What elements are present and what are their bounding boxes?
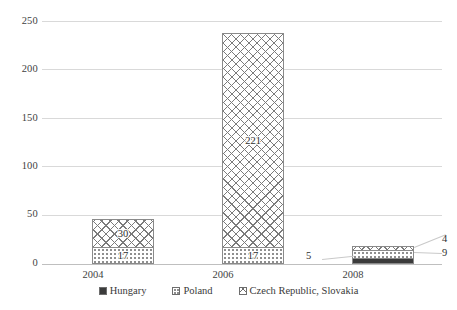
bar-label-2008-hungary: 5	[306, 250, 311, 261]
bar-segment-2004-czech-slovakia[interactable]: 30	[92, 219, 154, 248]
y-axis-tick-50: 50	[6, 209, 38, 219]
y-axis-tick-200: 200	[6, 64, 38, 74]
legend-label-czech-slovakia: Czech Republic, Slovakia	[250, 285, 359, 297]
legend-swatch-hungary-icon	[99, 287, 107, 295]
plot-area: 30 17 221 17 5 4 9	[42, 18, 442, 267]
legend-item-hungary[interactable]: Hungary	[99, 285, 147, 297]
legend-label-hungary: Hungary	[110, 285, 147, 297]
stacked-bar-chart: 250 200 150 100 50 0 30 17 221 17	[0, 0, 457, 310]
bar-label-2006-poland: 17	[248, 251, 259, 261]
y-axis-tick-100: 100	[6, 161, 38, 171]
bar-label-2008-poland: 9	[442, 247, 447, 258]
legend-swatch-poland-icon	[172, 287, 180, 295]
leader-line-2008-poland	[414, 252, 442, 254]
legend-label-poland: Poland	[183, 285, 212, 297]
bar-segment-2006-czech-slovakia[interactable]: 221	[222, 33, 284, 248]
bar-stack-2004[interactable]: 30 17	[92, 220, 154, 264]
bar-segment-2004-poland[interactable]: 17	[92, 247, 154, 264]
bar-label-2008-czech-slovakia: 4	[442, 233, 447, 244]
x-axis-tick-2006: 2006	[193, 269, 253, 281]
chart-legend: Hungary Poland Czech Republic, Slovakia	[0, 285, 457, 297]
legend-item-poland[interactable]: Poland	[172, 285, 212, 297]
leader-line-2008-hungary	[322, 256, 354, 260]
x-axis-tick-2008: 2008	[323, 269, 383, 281]
y-axis-tick-150: 150	[6, 113, 38, 123]
bar-label-2004-poland: 17	[118, 251, 129, 261]
bar-label-2004-czech-slovakia: 30	[118, 229, 129, 239]
bar-segment-2006-poland[interactable]: 17	[222, 247, 284, 264]
gridline-250	[42, 21, 442, 22]
y-axis-tick-250: 250	[6, 16, 38, 26]
legend-swatch-czech-slovakia-icon	[239, 287, 247, 295]
bar-label-2006-czech-slovakia: 221	[245, 136, 261, 146]
bar-stack-2006[interactable]: 221 17	[222, 34, 284, 264]
gridline-0-baseline	[42, 264, 442, 265]
legend-item-czech-slovakia[interactable]: Czech Republic, Slovakia	[239, 285, 359, 297]
bar-segment-2008-hungary[interactable]	[352, 258, 414, 264]
bar-stack-2008[interactable]	[352, 247, 414, 264]
y-axis-tick-0: 0	[6, 258, 38, 268]
x-axis-tick-2004: 2004	[63, 269, 123, 281]
